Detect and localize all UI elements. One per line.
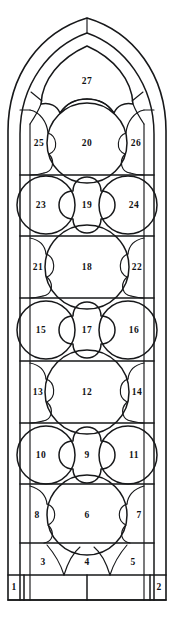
panel-25-lobe (44, 133, 56, 173)
gothic-window-diagram: 1 2 3 4 5 6 7 8 9 10 11 12 13 14 15 16 1… (0, 0, 174, 621)
panel-label-21: 21 (33, 262, 43, 272)
sill-row-group (24, 575, 150, 600)
panel-22-upper-arc (128, 238, 144, 254)
panel-label-6: 6 (84, 510, 89, 520)
panel-labels-group: 1 2 3 4 5 6 7 8 9 10 11 12 13 14 15 16 1… (11, 76, 161, 592)
panel-26-upper-arc (126, 110, 144, 133)
panel-14-upper-arc (128, 363, 144, 379)
panel-label-26: 26 (131, 138, 141, 148)
mullion-group (30, 124, 144, 600)
panel-7-upper-arc (127, 486, 144, 504)
panel-label-27: 27 (82, 76, 92, 86)
panel-25-upper-arc (30, 110, 48, 133)
panel-4-5-divider (110, 545, 127, 575)
arch-band-joint-right (132, 92, 143, 101)
panel-label-24: 24 (129, 200, 139, 210)
arch-band-joint-left (31, 92, 42, 101)
panel-label-1: 1 (11, 582, 16, 592)
panel-label-15: 15 (36, 325, 46, 335)
panel-label-5: 5 (130, 557, 135, 567)
panel-label-2: 2 (156, 582, 161, 592)
window-tracery-svg: 1 2 3 4 5 6 7 8 9 10 11 12 13 14 15 16 1… (0, 0, 174, 621)
panel-label-8: 8 (34, 510, 39, 520)
panel-8-upper-arc (30, 486, 47, 504)
panel-label-4: 4 (84, 557, 89, 567)
panel-label-9: 9 (84, 450, 89, 460)
panel-label-13: 13 (33, 387, 43, 397)
panel-13-upper-arc (30, 363, 46, 379)
panel-label-16: 16 (129, 325, 139, 335)
panel-label-19: 19 (82, 200, 92, 210)
panel-label-10: 10 (36, 450, 46, 460)
head-spandrel-right (133, 104, 144, 124)
panel-label-17: 17 (82, 325, 92, 335)
head-spandrel-left (30, 104, 41, 124)
panel-label-22: 22 (132, 262, 142, 272)
panel-3-4-divider (47, 545, 64, 575)
panel-label-12: 12 (82, 387, 92, 397)
panel-4-left-cusp (64, 547, 80, 575)
panel-label-25: 25 (34, 138, 44, 148)
panel-label-11: 11 (129, 450, 139, 460)
panel-label-18: 18 (82, 262, 92, 272)
panel-11-circle (99, 426, 157, 484)
panel-26-lobe (118, 133, 130, 173)
panel-label-23: 23 (36, 200, 46, 210)
panel-label-7: 7 (136, 510, 141, 520)
panel-label-14: 14 (132, 387, 142, 397)
panel-label-3: 3 (40, 557, 45, 567)
panel-21-upper-arc (30, 238, 46, 254)
panel-4-right-cusp (94, 547, 110, 575)
panel-label-20: 20 (82, 138, 92, 148)
